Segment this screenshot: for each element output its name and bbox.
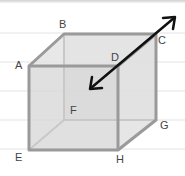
vertex-label-b: B: [59, 18, 66, 30]
vertex-label-f: F: [70, 104, 77, 116]
vertex-label-e: E: [15, 151, 22, 163]
cube-diagram: A B C D E F G H: [0, 0, 185, 176]
vertex-label-h: H: [116, 153, 124, 165]
vertex-label-d: D: [111, 51, 119, 63]
vertex-label-c: C: [158, 34, 166, 46]
vertex-label-g: G: [160, 119, 169, 131]
vertex-label-a: A: [15, 59, 23, 71]
